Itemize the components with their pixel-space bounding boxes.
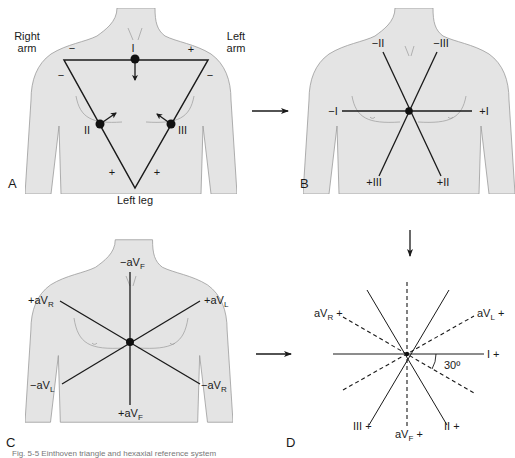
lead3-pos-label: III + [353,420,372,432]
avf-label: aVF + [395,428,423,443]
figure-caption: Fig. 5-5 Einthoven triangle and hexaxial… [12,449,216,458]
ll-left-polarity: + [109,166,115,178]
panel-letter-d: D [286,435,295,450]
torso-silhouette [303,8,515,194]
lead3-electrode-dot [167,120,176,129]
neg-lead2-label: −II [372,37,385,49]
panel-a: I II III − − + − + + Right arm Left arm … [8,8,245,206]
pos-lead1-label: +I [479,105,488,117]
panel-c: −aVF +aVR +aVL −aVL −aVR +aVF C [6,240,233,450]
right-arm-label-line1: Right [14,30,40,42]
panel-d: 30º aVR + aVL + I + III + aVF + II + D [286,282,504,450]
ll-right-polarity: + [154,166,160,178]
panel-letter-a: A [8,176,17,191]
center-dot [126,338,134,346]
angle-label: 30º [444,359,460,371]
left-arm-label-line1: Left [227,30,245,42]
lead3-axis [369,290,449,425]
lead1-electrode-dot [131,55,140,64]
center-dot [405,107,413,115]
angle-arc-30 [432,354,436,369]
lead2-electrode-dot [96,120,105,129]
pos-lead2-label: +II [437,176,450,188]
ra-side-polarity: − [58,69,64,81]
la-top-polarity: + [188,43,194,55]
lead2-label: II [84,124,90,136]
ra-top-polarity: − [69,42,75,54]
right-arm-label-line2: arm [18,42,37,54]
panel-letter-b: B [300,176,309,191]
avl-label: aVL + [477,307,504,322]
left-leg-label: Left leg [117,194,153,206]
neg-lead1-label: −I [328,105,337,117]
lead1-pos-label: I + [487,348,500,360]
left-arm-label-line2: arm [227,42,246,54]
lead1-label: I [131,42,134,54]
avr-label: aVR + [314,307,343,322]
center-dot [405,352,409,356]
panel-letter-c: C [6,435,15,450]
pos-lead3-label: +III [366,176,382,188]
la-side-polarity: − [207,69,213,81]
panel-b: −II −III −I +I +III +II B [300,8,515,194]
lead2-pos-label: II + [444,420,460,432]
lead3-label: III [178,124,187,136]
neg-lead3-label: −III [433,37,449,49]
